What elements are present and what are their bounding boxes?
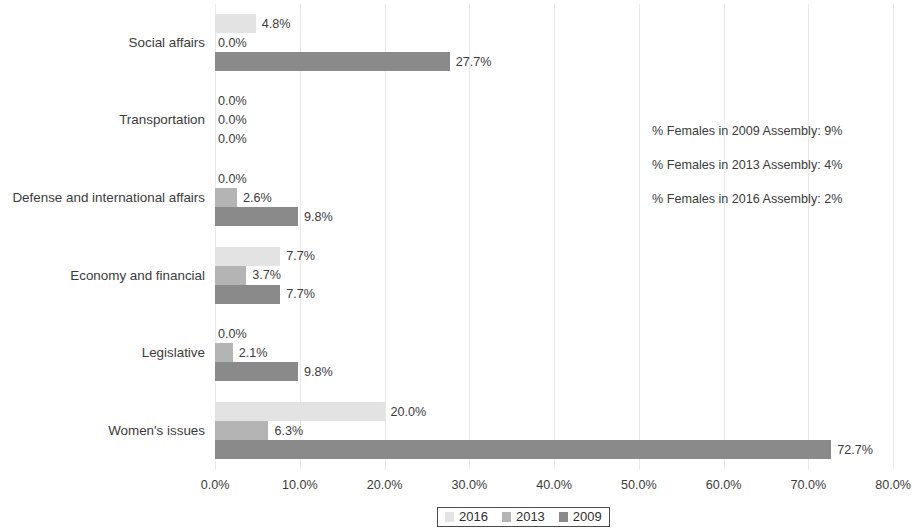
legend-label-2013: 2013 <box>516 509 545 524</box>
bar-rect-2009[interactable] <box>215 440 831 459</box>
legend-item-2013[interactable]: 2013 <box>502 509 545 524</box>
bar-group: 7.7%3.7%7.7% <box>215 237 923 315</box>
bar-value-label: 3.7% <box>252 268 281 282</box>
bar-value-label: 27.7% <box>456 55 492 69</box>
bar-2013[interactable]: 6.3% <box>215 421 303 440</box>
bar-rect-2013[interactable] <box>215 421 268 440</box>
bar-2016[interactable]: 0.0% <box>215 92 247 111</box>
bar-value-label: 2.1% <box>239 346 268 360</box>
bar-value-label: 4.8% <box>262 17 291 31</box>
category-label: Defense and international affairs <box>0 190 205 206</box>
x-tick-label: 80.0% <box>875 478 911 492</box>
annotation-2009: % Females in 2009 Assembly: 9% <box>652 124 912 138</box>
bar-2009[interactable]: 7.7% <box>215 285 315 304</box>
bar-value-label: 20.0% <box>391 405 427 419</box>
bar-value-label: 6.3% <box>274 424 303 438</box>
bar-value-label: 72.7% <box>837 443 873 457</box>
bar-rect-2016[interactable] <box>215 14 256 33</box>
bar-rect-2009[interactable] <box>215 285 280 304</box>
bar-2009[interactable]: 9.8% <box>215 362 333 381</box>
bar-rect-2009[interactable] <box>215 207 298 226</box>
chart-row: Women's issues20.0%6.3%72.7% <box>0 392 923 470</box>
x-tick-label: 50.0% <box>621 478 657 492</box>
bar-value-label: 2.6% <box>243 191 272 205</box>
bar-rect-2013[interactable] <box>215 188 237 207</box>
bar-2013[interactable]: 0.0% <box>215 111 247 130</box>
x-tick-label: 20.0% <box>367 478 403 492</box>
bar-rect-2013[interactable] <box>215 343 233 362</box>
x-tick-label: 70.0% <box>790 478 826 492</box>
bar-2013[interactable]: 2.1% <box>215 343 268 362</box>
bar-value-label: 0.0% <box>218 132 247 146</box>
bar-group: 0.0%2.1%9.8% <box>215 314 923 392</box>
annotation-2013: % Females in 2013 Assembly: 4% <box>652 158 912 172</box>
bar-value-label: 0.0% <box>218 94 247 108</box>
bar-2009[interactable]: 0.0% <box>215 130 247 149</box>
bar-2016[interactable]: 20.0% <box>215 402 426 421</box>
bar-value-label: 9.8% <box>304 210 333 224</box>
bar-2009[interactable]: 72.7% <box>215 440 873 459</box>
x-tick-label: 30.0% <box>451 478 487 492</box>
bar-2016[interactable]: 4.8% <box>215 14 290 33</box>
bar-chart: Social affairs4.8%0.0%27.7%Transportatio… <box>0 0 923 529</box>
bar-value-label: 0.0% <box>218 327 247 341</box>
x-tick-label: 0.0% <box>201 478 230 492</box>
chart-row: Legislative0.0%2.1%9.8% <box>0 314 923 392</box>
chart-row: Social affairs4.8%0.0%27.7% <box>0 4 923 82</box>
legend-swatch-2009 <box>559 512 568 522</box>
bar-2013[interactable]: 2.6% <box>215 188 272 207</box>
category-label: Economy and financial <box>0 268 205 284</box>
annotation-block: % Females in 2009 Assembly: 9% % Females… <box>652 124 912 226</box>
bar-rect-2009[interactable] <box>215 362 298 381</box>
category-label: Social affairs <box>0 35 205 51</box>
category-label: Transportation <box>0 112 205 128</box>
legend-swatch-2013 <box>502 512 511 522</box>
bar-value-label: 7.7% <box>286 287 315 301</box>
bar-2016[interactable]: 0.0% <box>215 324 247 343</box>
bar-rect-2016[interactable] <box>215 247 280 266</box>
bar-value-label: 0.0% <box>218 172 247 186</box>
bar-2013[interactable]: 0.0% <box>215 33 247 52</box>
bar-2016[interactable]: 7.7% <box>215 247 315 266</box>
x-tick-label: 60.0% <box>706 478 742 492</box>
chart-legend: 2016 2013 2009 <box>437 507 610 527</box>
bar-value-label: 0.0% <box>218 113 247 127</box>
bar-2013[interactable]: 3.7% <box>215 266 281 285</box>
bar-2016[interactable]: 0.0% <box>215 169 247 188</box>
category-label: Women's issues <box>0 423 205 439</box>
legend-swatch-2016 <box>445 512 454 522</box>
bar-value-label: 0.0% <box>218 36 247 50</box>
bar-value-label: 9.8% <box>304 365 333 379</box>
legend-label-2016: 2016 <box>459 509 488 524</box>
legend-label-2009: 2009 <box>573 509 602 524</box>
x-axis: 0.0%10.0%20.0%30.0%40.0%50.0%60.0%70.0%8… <box>215 478 893 498</box>
legend-item-2009[interactable]: 2009 <box>559 509 602 524</box>
legend-item-2016[interactable]: 2016 <box>445 509 488 524</box>
bar-group: 20.0%6.3%72.7% <box>215 392 923 470</box>
x-tick-label: 10.0% <box>282 478 318 492</box>
bar-rect-2009[interactable] <box>215 52 450 71</box>
bar-2009[interactable]: 9.8% <box>215 207 333 226</box>
category-label: Legislative <box>0 345 205 361</box>
x-tick-label: 40.0% <box>536 478 572 492</box>
bar-2009[interactable]: 27.7% <box>215 52 491 71</box>
bar-rect-2013[interactable] <box>215 266 246 285</box>
annotation-2016: % Females in 2016 Assembly: 2% <box>652 192 912 206</box>
chart-row: Economy and financial7.7%3.7%7.7% <box>0 237 923 315</box>
bar-group: 4.8%0.0%27.7% <box>215 4 923 82</box>
bar-rect-2016[interactable] <box>215 402 385 421</box>
bar-value-label: 7.7% <box>286 249 315 263</box>
